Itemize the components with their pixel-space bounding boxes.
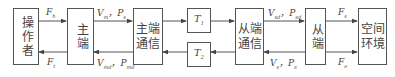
signal-vm-ps: Vm，Ps	[97, 6, 126, 20]
signal-vsd-psd: Vsd，Psd	[268, 6, 301, 20]
signal-fh: Fh	[46, 7, 55, 19]
signal-fs: Fs	[338, 7, 347, 19]
t2-label: T2	[194, 45, 204, 65]
master-comm-block: 主端通信	[133, 8, 163, 65]
master-block: 主端	[67, 8, 94, 65]
slave-comm-label: 从端通信	[237, 22, 263, 52]
master-label: 主端	[73, 23, 88, 51]
signal-vs-ps: Vs，Ps	[270, 56, 297, 70]
slave-block: 从端	[305, 8, 326, 65]
signal-ft: Ft	[47, 57, 55, 69]
slave-label: 从端	[308, 23, 323, 51]
operator-label: 操作者	[19, 16, 34, 58]
environment-label: 空间环境	[360, 22, 386, 52]
delay-t2-block: T2	[187, 42, 211, 67]
signal-fe: Fe	[338, 57, 347, 69]
slave-comm-block: 从端通信	[235, 8, 264, 65]
environment-block: 空间环境	[358, 8, 387, 65]
operator-block: 操作者	[13, 8, 39, 65]
master-comm-label: 主端通信	[135, 22, 161, 52]
delay-t1-block: T1	[187, 8, 211, 33]
t1-label: T1	[194, 11, 204, 31]
signal-vmd-pmd: Vmd，Pmd	[97, 56, 134, 70]
